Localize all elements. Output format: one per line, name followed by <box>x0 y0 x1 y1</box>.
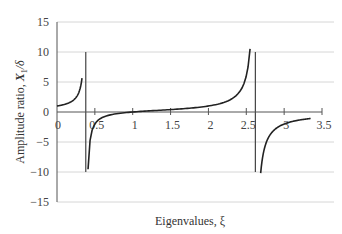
y-tick-label: −5 <box>36 135 49 149</box>
y-tick-label: 15 <box>37 15 49 29</box>
y-tick-label: −15 <box>30 195 49 209</box>
x-tick-labels: 00.511.522.533.5 <box>55 118 332 132</box>
x-tick-label: 3.5 <box>317 118 332 132</box>
y-tick-labels: 151050−5−10−15 <box>30 15 49 209</box>
x-axis-title: Eigenvalues, ξ <box>155 214 226 228</box>
x-tick-label: 1.5 <box>165 118 180 132</box>
x-tick-label: 1 <box>132 118 138 132</box>
axes <box>57 22 322 202</box>
y-tick-label: 0 <box>43 105 49 119</box>
x-tick-label: 3 <box>283 118 289 132</box>
y-tick-label: −10 <box>30 165 49 179</box>
x-tick-label: 2.5 <box>241 118 256 132</box>
x-tick-label: 2 <box>207 118 213 132</box>
x-tick-label: 0 <box>55 118 61 132</box>
y-tick-label: 10 <box>37 45 49 59</box>
y-axis-title: Amplitude ratio, X1/δ <box>13 60 29 164</box>
y-tick-label: 5 <box>43 75 49 89</box>
curve-branch-2 <box>88 49 250 169</box>
amplitude-ratio-chart: 00.511.522.533.5 151050−5−10−15 Eigenval… <box>0 0 342 234</box>
